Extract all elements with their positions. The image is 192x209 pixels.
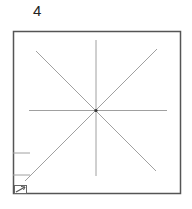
diagram-canvas xyxy=(0,0,192,209)
resize-arrow-icon[interactable] xyxy=(15,186,27,194)
center-dot xyxy=(94,109,97,112)
